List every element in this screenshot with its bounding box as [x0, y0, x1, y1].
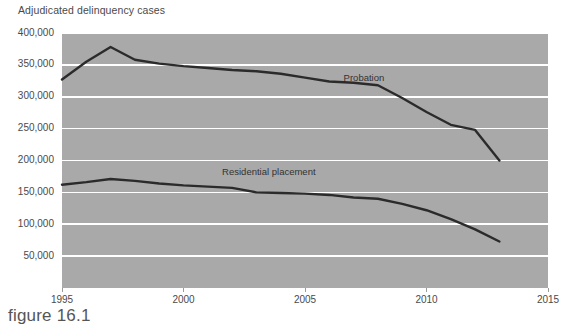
y-axis-tick-label: 350,000 — [2, 58, 54, 69]
axis-tick-marks — [62, 288, 548, 292]
x-axis-tick-label: 2015 — [526, 294, 570, 305]
y-axis-tick-label: 150,000 — [2, 186, 54, 197]
y-axis-tick-label: 100,000 — [2, 218, 54, 229]
y-axis-tick-label: 250,000 — [2, 122, 54, 133]
x-axis-tick-label: 2000 — [162, 294, 206, 305]
y-axis-tick-label: 50,000 — [2, 250, 54, 261]
figure-caption: figure 16.1 — [8, 306, 91, 326]
x-axis-tick-label: 1995 — [40, 294, 84, 305]
y-axis-tick-label: 300,000 — [2, 90, 54, 101]
series-label-probation: Probation — [344, 72, 385, 83]
x-axis-tick-label: 2005 — [283, 294, 327, 305]
figure-container: Adjudicated delinquency cases 50,000100,… — [0, 0, 576, 336]
series-label-residential-placement: Residential placement — [222, 166, 315, 177]
y-axis-tick-label: 200,000 — [2, 154, 54, 165]
y-axis-tick-label: 400,000 — [2, 27, 54, 38]
x-axis-tick-label: 2010 — [405, 294, 449, 305]
